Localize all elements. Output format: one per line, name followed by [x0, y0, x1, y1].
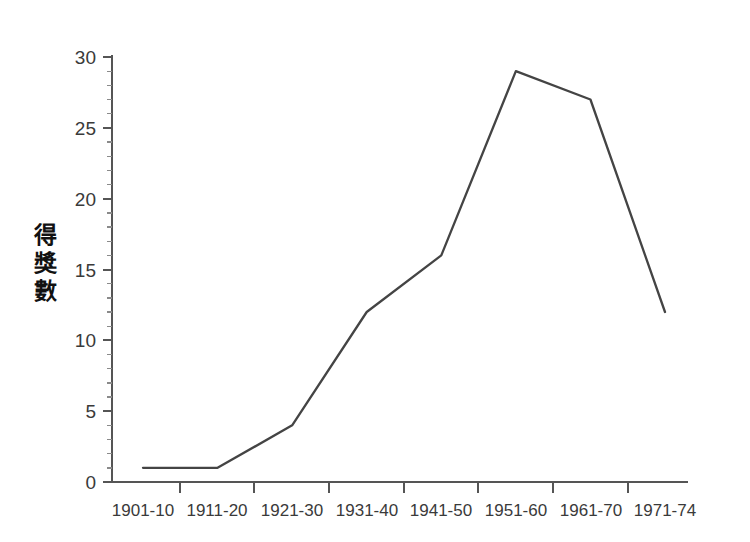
y-tick-label-20: 20: [75, 189, 96, 210]
y-axis-title-char-1: 得: [33, 222, 57, 248]
x-tick-label-1921-30: 1921-30: [261, 501, 323, 520]
chart-canvas: 0 5 10 15 20 25 30 得 獎 數 1901-10 1911-20…: [0, 0, 750, 542]
y-tick-label-0: 0: [85, 472, 96, 493]
x-tick-label-1931-40: 1931-40: [336, 501, 398, 520]
y-tick-label-30: 30: [75, 47, 96, 68]
y-tick-label-25: 25: [75, 118, 96, 139]
x-tick-label-1951-60: 1951-60: [485, 501, 547, 520]
y-axis-title-char-2: 獎: [33, 250, 58, 276]
line-chart: 0 5 10 15 20 25 30 得 獎 數 1901-10 1911-20…: [0, 0, 750, 542]
y-tick-label-10: 10: [75, 330, 96, 351]
y-tick-label-5: 5: [85, 401, 96, 422]
x-tick-label-1911-20: 1911-20: [186, 501, 247, 520]
y-axis-title-char-3: 數: [34, 278, 57, 304]
x-tick-label-1901-10: 1901-10: [112, 501, 174, 520]
x-tick-label-1971-74: 1971-74: [634, 501, 696, 520]
x-tick-label-1941-50: 1941-50: [410, 501, 472, 520]
x-tick-label-1961-70: 1961-70: [560, 501, 622, 520]
y-tick-label-15: 15: [75, 260, 96, 281]
y-axis-title: 得 獎 數: [33, 222, 58, 304]
